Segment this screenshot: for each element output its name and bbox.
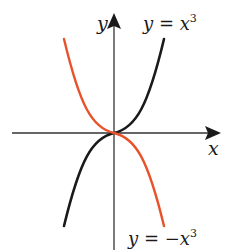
y-axis-label: y: [96, 12, 108, 34]
x-axis-label: x: [208, 137, 219, 159]
negative-cubic-label: y = −x3: [127, 227, 197, 249]
cubic-graph: y x y = x3 y = −x3: [0, 0, 228, 250]
cubic-label: y = x3: [142, 12, 197, 34]
